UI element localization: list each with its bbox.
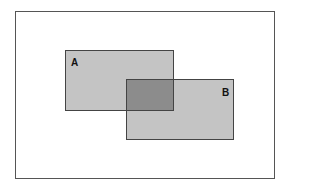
intersection-region <box>126 79 174 111</box>
label-a: A <box>71 58 78 68</box>
label-b: B <box>222 88 229 98</box>
